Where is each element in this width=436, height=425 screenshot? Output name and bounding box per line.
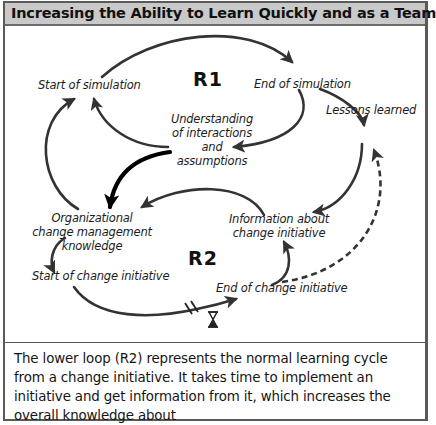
figure-caption: The lower loop (R2) represents the norma… xyxy=(5,342,425,419)
node-understanding: Understanding of interactions and assump… xyxy=(162,112,262,168)
arrow-understanding-to-start-sim xyxy=(94,99,168,147)
node-lessons-learned: Lessons learned xyxy=(326,103,416,117)
hourglass-icon xyxy=(208,312,218,327)
loop-label-r1: R1 xyxy=(193,68,223,90)
arrow-start-change-to-end-change xyxy=(74,287,236,315)
diagram-arrows xyxy=(2,2,436,347)
loop-label-r2: R2 xyxy=(188,247,218,269)
caption-text: The lower loop (R2) represents the norma… xyxy=(14,349,417,425)
arrow-org-to-start-sim xyxy=(46,99,78,209)
node-start-of-simulation: Start of simulation xyxy=(38,78,141,92)
arrow-end-change-to-information xyxy=(272,242,289,285)
node-org-knowledge: Organizational change management knowled… xyxy=(32,211,152,253)
node-start-of-change: Start of change initiative xyxy=(32,269,169,283)
node-end-of-simulation: End of simulation xyxy=(254,77,351,91)
node-end-of-change: End of change initiative xyxy=(216,281,347,295)
arrow-lessons-to-information xyxy=(314,144,362,212)
node-information: Information about change initiative xyxy=(224,212,334,240)
figure-box: Increasing the Ability to Learn Quickly … xyxy=(3,1,428,421)
causal-loop-diagram: R1 R2 Start of simulation End of simulat… xyxy=(5,26,427,342)
